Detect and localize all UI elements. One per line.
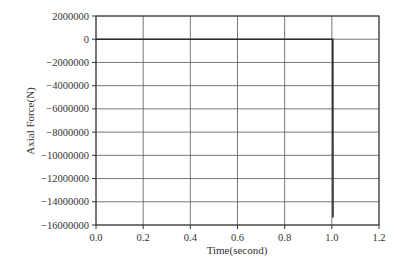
axial-force-line — [96, 39, 333, 217]
x-tick-label: 0.4 — [184, 232, 198, 243]
grid-lines — [96, 16, 379, 225]
y-tick-label: 0 — [84, 34, 89, 45]
y-tick-label: −12000000 — [41, 173, 89, 184]
x-axis-title: Time(second) — [207, 244, 268, 257]
x-tick-label: 0.2 — [137, 232, 150, 243]
y-tick-label: 2000000 — [52, 11, 89, 22]
y-axis-ticks: 20000000−2000000−4000000−6000000−8000000… — [41, 11, 96, 231]
y-tick-label: −6000000 — [46, 103, 89, 114]
y-tick-label: −10000000 — [41, 150, 89, 161]
x-tick-label: 1.0 — [325, 232, 338, 243]
y-tick-label: −2000000 — [46, 57, 89, 68]
y-axis-title: Axial Force(N) — [24, 87, 37, 155]
y-tick-label: −14000000 — [41, 196, 89, 207]
x-tick-label: 0.8 — [278, 232, 291, 243]
x-axis-ticks: 0.00.20.40.60.81.01.2 — [89, 225, 385, 243]
x-tick-label: 0.0 — [89, 232, 102, 243]
chart: 20000000−2000000−4000000−6000000−8000000… — [0, 0, 409, 272]
data-series — [96, 39, 333, 217]
y-tick-label: −16000000 — [41, 220, 89, 231]
x-tick-label: 0.6 — [231, 232, 244, 243]
y-tick-label: −8000000 — [46, 127, 89, 138]
x-tick-label: 1.2 — [372, 232, 385, 243]
y-tick-label: −4000000 — [46, 80, 89, 91]
